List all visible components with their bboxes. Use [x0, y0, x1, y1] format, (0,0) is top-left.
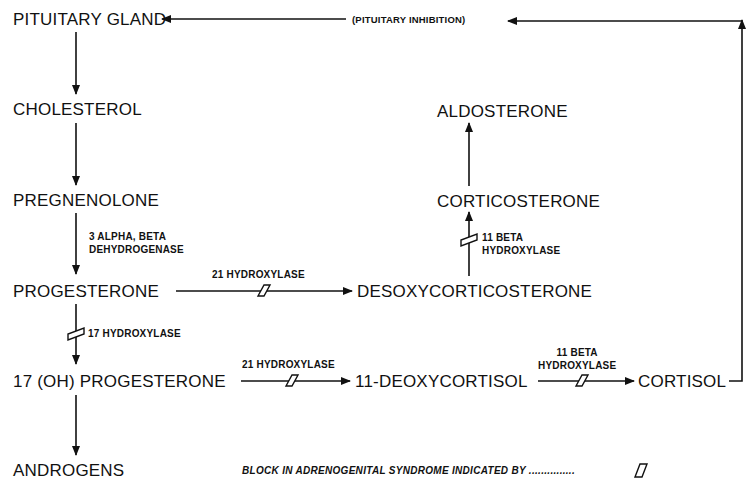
node-pregnenolone: PREGNENOLONE [13, 192, 159, 209]
node-cholesterol: CHOLESTEROL [13, 101, 142, 118]
node-desoxycorticosterone: DESOXYCORTICOSTERONE [357, 283, 592, 300]
node-11-deoxycortisol: 11-DEOXYCORTISOL [355, 373, 528, 390]
node-17oh-progesterone: 17 (OH) PROGESTERONE [13, 373, 226, 390]
enzyme-label-line: HYDROXYLASE [538, 360, 616, 373]
steroidogenesis-diagram: PITUITARY GLAND CHOLESTEROL PREGNENOLONE… [0, 0, 752, 490]
enzyme-label-line: 11 BETA [482, 232, 560, 245]
feedback-line-cortisol [729, 20, 742, 381]
enzyme-label-21-hydroxylase-a: 21 HYDROXYLASE [212, 269, 305, 282]
enzyme-label-3-alpha-beta-dehydrogenase: 3 ALPHA, BETA DEHYDROGENASE [89, 231, 184, 256]
node-cortisol: CORTISOL [638, 373, 726, 390]
node-aldosterone: ALDOSTERONE [437, 103, 568, 120]
enzyme-label-11-beta-hydroxylase-a: 11 BETA HYDROXYLASE [482, 232, 560, 257]
node-progesterone: PROGESTERONE [13, 283, 159, 300]
enzyme-label-21-hydroxylase-b: 21 HYDROXYLASE [242, 359, 335, 372]
enzyme-label-11-beta-hydroxylase-b: 11 BETA HYDROXYLASE [538, 347, 616, 372]
feedback-label-pituitary-inhibition: (PITUITARY INHIBITION) [352, 14, 465, 26]
enzyme-label-line: DEHYDROGENASE [89, 244, 184, 257]
enzyme-label-line: 11 BETA [538, 347, 616, 360]
legend-block-icon [635, 464, 647, 477]
node-corticosterone: CORTICOSTERONE [437, 193, 600, 210]
node-pituitary-gland: PITUITARY GLAND [13, 11, 166, 28]
node-androgens: ANDROGENS [13, 462, 124, 479]
enzyme-label-line: HYDROXYLASE [482, 245, 560, 258]
legend-text: BLOCK IN ADRENOGENITAL SYNDROME INDICATE… [242, 465, 575, 476]
enzyme-label-line: 3 ALPHA, BETA [89, 231, 184, 244]
enzyme-label-17-hydroxylase: 17 HYDROXYLASE [88, 328, 181, 341]
